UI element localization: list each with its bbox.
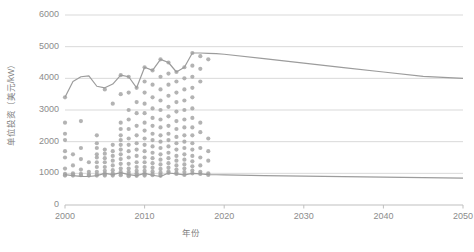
scatter-point <box>190 106 194 110</box>
x-axis-tick-label: 2040 <box>363 211 403 221</box>
scatter-point <box>71 163 75 167</box>
scatter-point <box>143 155 147 159</box>
scatter-point <box>158 87 162 91</box>
scatter-point <box>143 149 147 153</box>
scatter-point <box>182 87 186 91</box>
y-axis-tick-label: 0 <box>25 199 59 209</box>
scatter-point <box>79 119 83 123</box>
scatter-point <box>166 114 170 118</box>
scatter-point <box>198 67 202 71</box>
scatter-point <box>135 154 139 158</box>
scatter-point <box>166 166 170 170</box>
scatter-point <box>135 147 139 151</box>
scatter-point <box>103 147 107 151</box>
scatter-point <box>182 117 186 121</box>
scatter-point <box>119 143 123 147</box>
scatter-point <box>150 106 154 110</box>
scatter-point <box>198 79 202 83</box>
upper-bound-line <box>65 53 463 97</box>
scatter-point <box>166 83 170 87</box>
scatter-point <box>198 121 202 125</box>
scatter-point <box>190 75 194 79</box>
y-axis-tick-label: 5000 <box>25 41 59 51</box>
y-axis-tick-label: 6000 <box>25 9 59 19</box>
scatter-point <box>182 133 186 137</box>
scatter-point <box>158 125 162 129</box>
scatter-point <box>95 155 99 159</box>
scatter-point <box>79 167 83 171</box>
scatter-point <box>119 162 123 166</box>
scatter-point <box>135 160 139 164</box>
scatter-point <box>63 155 67 159</box>
scatter-point <box>127 90 131 94</box>
y-axis-tick-label: 3000 <box>25 104 59 114</box>
scatter-point <box>143 90 147 94</box>
scatter-point <box>206 136 210 140</box>
scatter-point <box>71 152 75 156</box>
scatter-point <box>143 160 147 164</box>
scatter-point <box>103 156 107 160</box>
scatter-point <box>127 162 131 166</box>
scatter-point <box>166 144 170 148</box>
scatter-point <box>166 138 170 142</box>
scatter-point <box>63 121 67 125</box>
scatter-point <box>190 164 194 168</box>
scatter-point <box>158 152 162 156</box>
scatter-point <box>166 105 170 109</box>
scatter-point <box>190 95 194 99</box>
scatter-point <box>119 127 123 131</box>
scatter-point <box>127 117 131 121</box>
scatter-point <box>206 149 210 153</box>
scatter-point <box>79 157 83 161</box>
scatter-point <box>182 98 186 102</box>
scatter-point <box>143 128 147 132</box>
scatter-point <box>174 90 178 94</box>
scatter-point <box>150 95 154 99</box>
scatter-point <box>119 157 123 161</box>
scatter-point <box>174 147 178 151</box>
scatter-point <box>158 133 162 137</box>
scatter-point <box>174 135 178 139</box>
scatter-points <box>63 51 210 178</box>
scatter-point <box>150 166 154 170</box>
scatter-point <box>127 143 131 147</box>
trend-lines <box>65 53 463 178</box>
scatter-point <box>111 163 115 167</box>
scatter-point <box>111 102 115 106</box>
scatter-point <box>158 158 162 162</box>
scatter-point <box>103 160 107 164</box>
scatter-point <box>166 94 170 98</box>
scatter-point <box>174 159 178 163</box>
scatter-point <box>111 143 115 147</box>
scatter-point <box>150 124 154 128</box>
scatter-point <box>119 173 123 177</box>
scatter-point <box>190 159 194 163</box>
scatter-point <box>190 125 194 129</box>
scatter-point <box>143 121 147 125</box>
scatter-point <box>190 133 194 137</box>
scatter-point <box>158 117 162 121</box>
scatter-point <box>127 149 131 153</box>
scatter-point <box>182 140 186 144</box>
gridlines <box>65 15 463 173</box>
scatter-point <box>174 79 178 83</box>
x-axis-tick-label: 2030 <box>284 211 324 221</box>
scatter-point <box>119 147 123 151</box>
scatter-point <box>174 119 178 123</box>
scatter-point <box>127 136 131 140</box>
scatter-point <box>166 132 170 136</box>
scatter-point <box>87 160 91 164</box>
scatter-point <box>95 141 99 145</box>
x-axis-tick-label: 2010 <box>125 211 165 221</box>
scatter-point <box>143 111 147 115</box>
scatter-point <box>103 165 107 169</box>
scatter-point <box>206 57 210 61</box>
scatter-point <box>95 146 99 150</box>
scatter-point <box>198 163 202 167</box>
scatter-point <box>150 144 154 148</box>
scatter-point <box>190 147 194 151</box>
scatter-point <box>111 154 115 158</box>
scatter-point <box>119 152 123 156</box>
scatter-point <box>111 159 115 163</box>
scatter-point <box>135 111 139 115</box>
